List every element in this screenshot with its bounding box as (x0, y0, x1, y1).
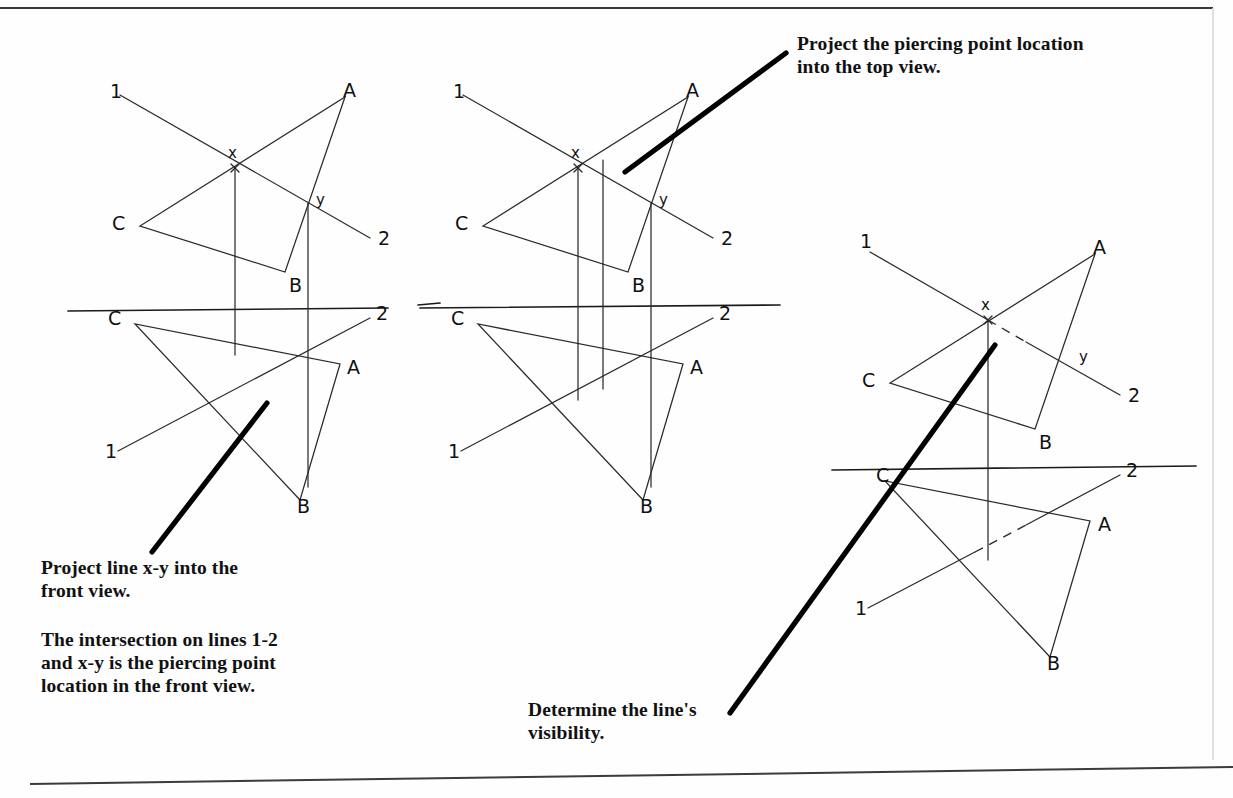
figure-2-label-top-A: A (686, 79, 699, 101)
figure-3-front-view (868, 475, 1120, 657)
pointer-line-top-view-note (625, 53, 786, 172)
figure-2-label-top-y: y (659, 191, 668, 209)
pointer-line-visibility-note (730, 345, 995, 713)
figure-1-label-top-C: C (112, 212, 125, 234)
figure-2-label-top-B: B (632, 274, 645, 296)
figure-1-label-front-1: 1 (105, 440, 117, 462)
figure-1-label-top-x: x (228, 144, 237, 162)
figure-2-step-project-into-top-view: A B C x y 1 2 A B C 1 2 (420, 53, 786, 517)
figure-1-label-top-A: A (343, 79, 356, 101)
figure-3-label-top-y: y (1079, 348, 1088, 366)
figure-2-label-front-B: B (640, 495, 653, 517)
figure-1-top-triangle-abc (140, 97, 345, 272)
figure-3-label-top-1: 1 (860, 230, 872, 252)
figure-2-top-view (463, 95, 713, 272)
figure-3-step-determine-visibility: A B C x y 1 2 A B C 1 2 (730, 230, 1196, 713)
figure-1-label-top-B: B (289, 274, 302, 296)
figure-3-label-top-C: C (862, 369, 875, 391)
figure-2-label-top-C: C (455, 212, 468, 234)
figure-3-label-front-1: 1 (855, 597, 867, 619)
figure-3-top-line-1-2-hidden-segment (988, 320, 1026, 342)
note-intersection-piercing-point: The intersection on lines 1-2 and x-y is… (41, 628, 278, 697)
figure-2-top-triangle-abc (483, 97, 688, 272)
figure-1-label-front-C: C (108, 307, 121, 329)
figure-2-label-front-C: C (451, 307, 464, 329)
figure-3-front-line-1-2-hidden-segment (975, 525, 1026, 552)
figure-1-reference-line-tick (418, 303, 440, 305)
figure-3-label-top-2: 2 (1128, 384, 1140, 406)
figure-1-label-top-2: 2 (378, 227, 390, 249)
figure-3-top-view (870, 252, 1120, 429)
figure-2-front-line-1-2 (461, 318, 713, 451)
figure-3-label-top-x: x (981, 296, 990, 314)
figure-1-step-project-xy: A B C x y 1 2 A B C 1 2 (68, 79, 440, 552)
figure-3-front-line-1-2-visible-left (868, 552, 975, 608)
figure-2-label-front-2: 2 (719, 302, 731, 324)
figure-1-projection-lines (235, 168, 308, 487)
figure-1-label-front-B: B (297, 495, 310, 517)
note-project-line-xy: Project line x-y into the front view. (41, 556, 238, 602)
figure-1-label-front-A: A (347, 356, 360, 378)
figure-3-label-top-A: A (1093, 236, 1106, 258)
figure-3-label-top-B: B (1039, 431, 1052, 453)
figure-1-label-top-y: y (316, 191, 325, 209)
figure-3-label-front-C: C (876, 464, 889, 486)
figure-2-front-view (461, 318, 713, 500)
figure-2-label-top-x: x (571, 144, 580, 162)
figure-1-top-line-1-2 (120, 95, 370, 238)
figure-2-projection-lines (578, 160, 651, 487)
note-project-into-top-view: Project the piercing point location into… (797, 32, 1084, 78)
bottom-border-line (30, 767, 1233, 784)
figure-1-label-top-1: 1 (110, 80, 122, 102)
figure-2-label-top-2: 2 (721, 227, 733, 249)
figure-1-front-view (118, 318, 370, 500)
figure-1-label-front-2: 2 (376, 302, 388, 324)
figure-3-top-line-1-2-visible-left (870, 252, 988, 320)
drawing-sheet: A B C x y 1 2 A B C 1 2 (0, 0, 1233, 798)
figure-3-top-line-1-2-visible-right (1026, 342, 1120, 395)
figure-3-top-triangle-abc (890, 254, 1095, 429)
pointer-line-project-xy (152, 403, 267, 552)
figure-3-label-front-B: B (1047, 652, 1060, 674)
figure-1-top-view (120, 95, 370, 272)
note-determine-visibility: Determine the line's visibility. (528, 698, 697, 744)
figure-2-label-front-A: A (690, 356, 703, 378)
figure-2-top-line-1-2 (463, 95, 713, 238)
figure-2-label-front-1: 1 (448, 440, 460, 462)
figure-3-label-front-A: A (1098, 513, 1111, 535)
figure-2-label-top-1: 1 (453, 80, 465, 102)
figure-3-label-front-2: 2 (1126, 459, 1138, 481)
